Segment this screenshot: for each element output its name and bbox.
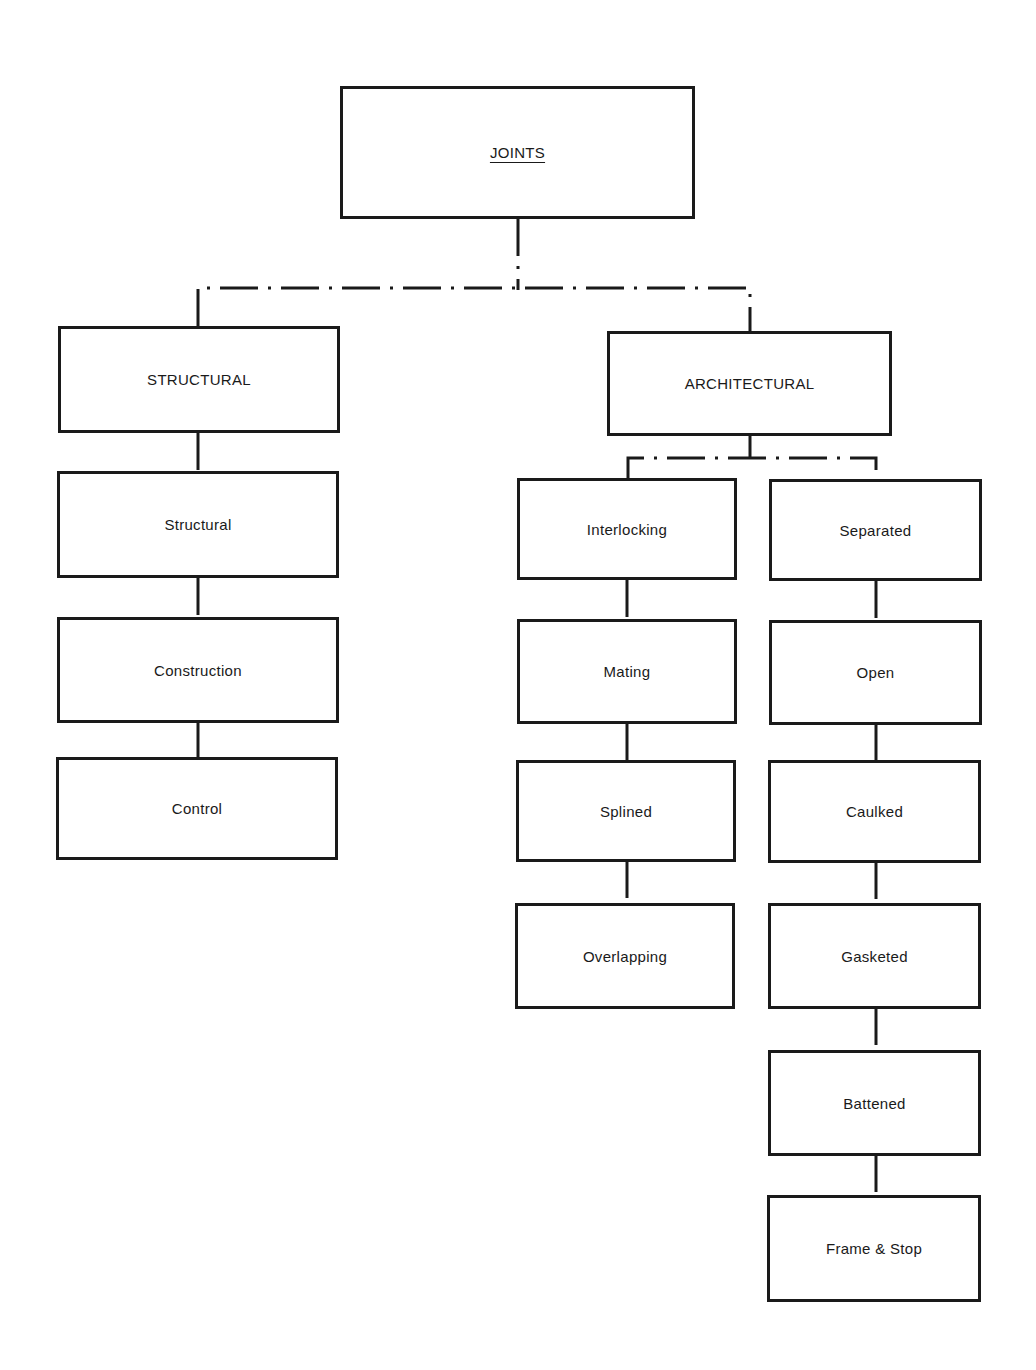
- node-structural-category: STRUCTURAL: [58, 326, 340, 433]
- node-interlocking: Interlocking: [517, 478, 737, 580]
- node-label: Overlapping: [583, 948, 667, 965]
- node-label: Mating: [604, 663, 651, 680]
- node-gasketed: Gasketed: [768, 903, 981, 1009]
- node-label: STRUCTURAL: [147, 371, 251, 388]
- node-joints: JOINTS: [340, 86, 695, 219]
- node-mating: Mating: [517, 619, 737, 724]
- node-label: JOINTS: [490, 144, 545, 161]
- node-label: ARCHITECTURAL: [685, 375, 815, 392]
- node-label: Gasketed: [841, 948, 908, 965]
- node-overlapping: Overlapping: [515, 903, 735, 1009]
- node-caulked: Caulked: [768, 760, 981, 863]
- node-separated: Separated: [769, 479, 982, 581]
- node-frame-and-stop: Frame & Stop: [767, 1195, 981, 1302]
- node-label: Construction: [154, 662, 242, 679]
- node-label: Open: [857, 664, 895, 681]
- node-label: Caulked: [846, 803, 903, 820]
- node-label: Splined: [600, 803, 652, 820]
- node-architectural-category: ARCHITECTURAL: [607, 331, 892, 436]
- node-construction: Construction: [57, 617, 339, 723]
- node-label: Battened: [843, 1095, 905, 1112]
- node-label: Control: [172, 800, 222, 817]
- node-label: Frame & Stop: [826, 1240, 922, 1257]
- node-control: Control: [56, 757, 338, 860]
- node-splined: Splined: [516, 760, 736, 862]
- node-battened: Battened: [768, 1050, 981, 1156]
- node-label: Separated: [840, 522, 912, 539]
- node-structural: Structural: [57, 471, 339, 578]
- node-open: Open: [769, 620, 982, 725]
- node-label: Interlocking: [587, 521, 667, 538]
- node-label: Structural: [164, 516, 231, 533]
